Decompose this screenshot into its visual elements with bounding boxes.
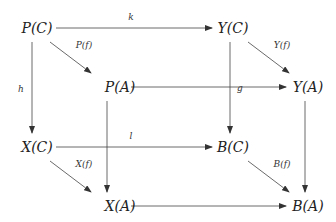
node-b-c: B(C) xyxy=(217,139,249,155)
commutative-cube-diagram: P(C) Y(C) P(A) Y(A) X(C) B(C) X(A) B(A) … xyxy=(0,0,336,222)
label-l: l xyxy=(130,131,133,141)
label-p-f: P(f) xyxy=(76,40,92,50)
label-g: g xyxy=(237,83,243,93)
node-p-c: P(C) xyxy=(21,20,52,36)
node-y-a: Y(A) xyxy=(293,79,323,95)
node-b-a: B(A) xyxy=(292,198,323,214)
label-x-f: X(f) xyxy=(76,159,93,169)
node-p-a: P(A) xyxy=(105,79,135,95)
node-x-a: X(A) xyxy=(104,198,135,214)
label-k: k xyxy=(128,12,133,22)
label-h: h xyxy=(18,84,24,94)
label-y-f: Y(f) xyxy=(274,40,290,50)
node-y-c: Y(C) xyxy=(218,20,249,36)
label-b-f: B(f) xyxy=(274,159,291,169)
node-x-c: X(C) xyxy=(21,139,53,155)
